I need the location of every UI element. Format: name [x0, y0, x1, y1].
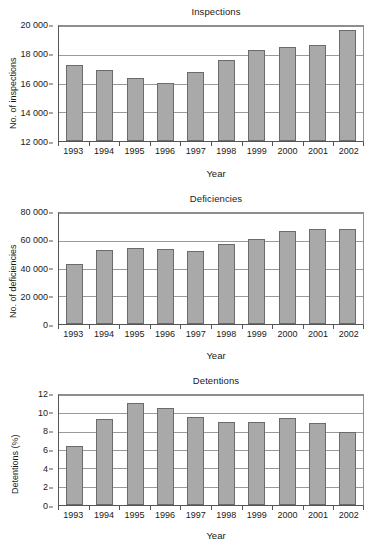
x-axis-ticks-inspections: 1993199419951996199719981999200020012002 — [58, 146, 364, 156]
x-tick-label: 1993 — [58, 329, 89, 339]
x-tick-label: 1998 — [211, 510, 242, 520]
x-tick-label: 1998 — [211, 329, 242, 339]
y-tick-label: 12 — [38, 390, 48, 399]
y-axis-ticks-deficiencies: 020 00040 00060 00080 000 — [0, 212, 54, 325]
bar[interactable] — [66, 446, 83, 505]
bar[interactable] — [187, 72, 204, 141]
bar-slot — [150, 395, 180, 505]
x-tick-label: 1997 — [180, 329, 211, 339]
y-tick-label: 12 000 — [20, 138, 48, 147]
x-tick-label: 1994 — [89, 329, 120, 339]
x-tick-label: 2000 — [272, 510, 303, 520]
bar[interactable] — [66, 65, 83, 141]
bar[interactable] — [248, 50, 265, 141]
bar[interactable] — [127, 403, 144, 505]
bar[interactable] — [339, 30, 356, 141]
y-tick-label: 16 000 — [20, 79, 48, 88]
figure-port-state-control-statistics: Inspections No. of inspections 12 00014 … — [0, 0, 376, 552]
x-axis-ticks-deficiencies: 1993199419951996199719981999200020012002 — [58, 329, 364, 339]
bar[interactable] — [218, 422, 235, 505]
bar[interactable] — [187, 417, 204, 505]
bar-slot — [333, 26, 363, 141]
bar-slot — [272, 395, 302, 505]
y-tick-label: 40 000 — [20, 264, 48, 273]
x-axis-label-detentions: Year — [0, 530, 376, 541]
bar[interactable] — [96, 250, 113, 324]
bar-slot — [333, 213, 363, 324]
bar-series-detentions — [59, 395, 363, 505]
x-tick-label: 2001 — [303, 329, 334, 339]
y-tick-label: 8 — [43, 427, 48, 436]
bar[interactable] — [339, 229, 356, 324]
bar-slot — [241, 213, 271, 324]
bar-slot — [241, 26, 271, 141]
bar[interactable] — [248, 422, 265, 505]
plot-area-deficiencies — [58, 212, 364, 325]
x-tick-label: 1997 — [180, 510, 211, 520]
x-tick-label: 1993 — [58, 510, 89, 520]
bar[interactable] — [279, 418, 296, 505]
bar[interactable] — [309, 45, 326, 141]
x-tick-label: 1999 — [242, 510, 273, 520]
y-tick-label: 4 — [43, 464, 48, 473]
bar[interactable] — [127, 78, 144, 141]
bar[interactable] — [157, 249, 174, 324]
y-tick-label: 14 000 — [20, 108, 48, 117]
x-axis-ticks-detentions: 1993199419951996199719981999200020012002 — [58, 510, 364, 520]
bar[interactable] — [96, 419, 113, 505]
x-tick-label: 1998 — [211, 146, 242, 156]
bar[interactable] — [309, 229, 326, 324]
x-axis-label-deficiencies: Year — [0, 350, 376, 361]
bar-slot — [302, 213, 332, 324]
bar[interactable] — [248, 239, 265, 324]
bar[interactable] — [66, 264, 83, 324]
x-axis-label-inspections: Year — [0, 168, 376, 179]
x-tick-label: 1995 — [119, 146, 150, 156]
bar[interactable] — [127, 248, 144, 324]
bar[interactable] — [339, 432, 356, 505]
bar-slot — [59, 395, 89, 505]
bar-slot — [59, 213, 89, 324]
y-tick-label: 20 000 — [20, 292, 48, 301]
bar[interactable] — [309, 423, 326, 506]
y-tick-label: 2 — [43, 483, 48, 492]
chart-title-deficiencies: Deficiencies — [0, 193, 376, 204]
plot-area-inspections — [58, 25, 364, 142]
bar-slot — [181, 395, 211, 505]
bar-slot — [211, 26, 241, 141]
y-tick-label: 0 — [43, 321, 48, 330]
y-tick-label: 0 — [43, 502, 48, 511]
x-tick-label: 1994 — [89, 510, 120, 520]
bar[interactable] — [279, 231, 296, 324]
x-tick-label: 1995 — [119, 329, 150, 339]
x-tick-label: 2002 — [333, 510, 364, 520]
bar[interactable] — [218, 60, 235, 141]
y-tick-label: 60 000 — [20, 236, 48, 245]
x-tick-label: 2001 — [303, 146, 334, 156]
bar-slot — [333, 395, 363, 505]
bar[interactable] — [96, 70, 113, 141]
x-tick-label: 2001 — [303, 510, 334, 520]
bar-slot — [120, 395, 150, 505]
bar[interactable] — [279, 47, 296, 141]
y-axis-ticks-inspections: 12 00014 00016 00018 00020 000 — [0, 25, 54, 142]
x-tick-label: 1996 — [150, 146, 181, 156]
bar[interactable] — [157, 408, 174, 505]
bar-slot — [181, 213, 211, 324]
bar-slot — [241, 395, 271, 505]
plot-area-detentions — [58, 394, 364, 506]
x-tick-label: 2002 — [333, 329, 364, 339]
bar-slot — [120, 213, 150, 324]
y-tick-label: 18 000 — [20, 50, 48, 59]
x-tick-label: 1994 — [89, 146, 120, 156]
bar[interactable] — [157, 83, 174, 141]
y-tick-label: 80 000 — [20, 208, 48, 217]
bar[interactable] — [187, 251, 204, 324]
bar-slot — [302, 395, 332, 505]
bar-series-inspections — [59, 26, 363, 141]
bar[interactable] — [218, 244, 235, 324]
chart-panel-inspections: Inspections No. of inspections 12 00014 … — [0, 0, 376, 190]
x-tick-label: 1993 — [58, 146, 89, 156]
bar-slot — [89, 26, 119, 141]
chart-panel-detentions: Detentions Detentions (%) 024681012 1993… — [0, 372, 376, 552]
